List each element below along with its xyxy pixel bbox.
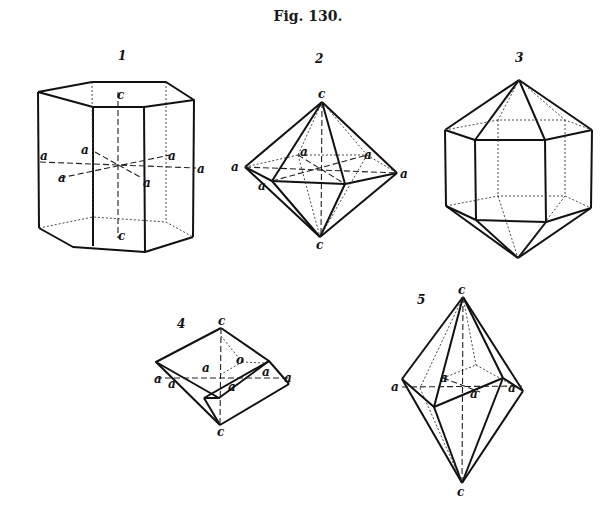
label-c-top: c [117, 88, 125, 102]
label-a: a [228, 380, 236, 394]
label-a: a [284, 371, 292, 385]
panel-1-number: 1 [118, 49, 126, 63]
label-a: a [81, 143, 89, 157]
label-a: a [258, 179, 266, 193]
panel-4-number: 4 [177, 317, 185, 331]
panel-2-hexagonal-bipyramid: 2 c c a a a a a [231, 52, 408, 252]
label-a: a [202, 361, 210, 375]
label-a: a [508, 381, 516, 395]
label-a: a [168, 149, 176, 163]
label-a: a [391, 380, 399, 394]
panel-4-rhombohedron: 4 c c o a a a a a a [154, 314, 292, 439]
label-a: a [400, 167, 408, 181]
label-a: a [262, 365, 270, 379]
label-a: a [470, 387, 478, 401]
label-a: a [168, 377, 176, 391]
label-a: a [300, 145, 308, 159]
label-a: a [40, 149, 48, 163]
label-a: a [440, 371, 448, 385]
panel-3-number: 3 [515, 51, 523, 65]
panel-5-scalenohedron: 5 c c a a a a [391, 283, 523, 499]
label-c-bottom: c [457, 485, 465, 499]
label-a: a [231, 160, 239, 174]
label-c-top: c [318, 87, 326, 101]
panel-5-number: 5 [417, 293, 425, 307]
panel-2-number: 2 [314, 52, 323, 66]
label-a: a [154, 372, 162, 386]
label-a: a [197, 162, 205, 176]
label-c-bottom: c [316, 238, 324, 252]
label-a: a [58, 171, 66, 185]
label-o: o [236, 353, 244, 367]
panel-3-prism-bipyramid: 3 [445, 51, 592, 258]
crystal-figure: 1 c c a a a a a a 2 [0, 0, 616, 517]
label-c-top: c [218, 314, 226, 328]
label-a: a [364, 148, 372, 162]
panel-1-hexagonal-prism: 1 c c a a a a a a [38, 49, 205, 252]
label-c-bottom: c [118, 229, 126, 243]
label-c-bottom: c [217, 425, 225, 439]
label-a: a [143, 176, 151, 190]
label-c-top: c [458, 283, 466, 297]
